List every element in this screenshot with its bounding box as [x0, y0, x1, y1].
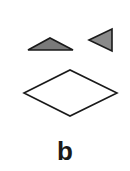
- left-pointing-triangle-shape: [89, 29, 112, 51]
- diamond-shape: [24, 70, 117, 116]
- panel-label: b: [0, 138, 130, 164]
- flat-triangle-shape: [28, 38, 73, 50]
